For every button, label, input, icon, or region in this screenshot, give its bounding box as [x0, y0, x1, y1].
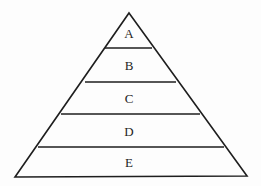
tier-label-d: D	[109, 125, 149, 138]
pyramid-diagram: A B C D E	[0, 0, 261, 186]
tier-label-b: B	[109, 59, 149, 72]
tier-label-a: A	[109, 27, 149, 40]
tier-label-c: C	[109, 92, 149, 105]
tier-label-e: E	[109, 156, 149, 169]
